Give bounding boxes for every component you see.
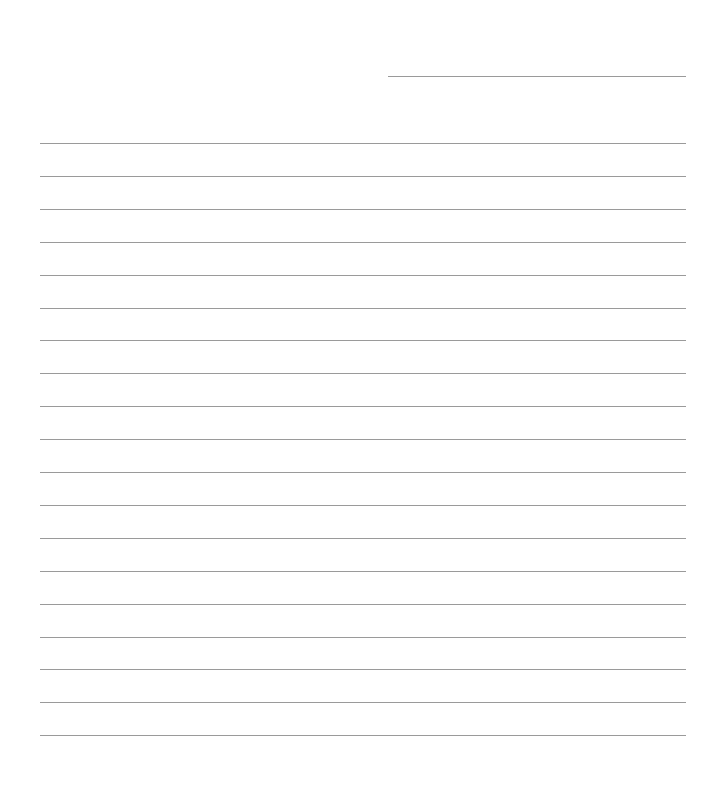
ruled-line [40,571,686,572]
ruled-line [40,505,686,506]
ruled-line [40,209,686,210]
ruled-line [40,604,686,605]
ruled-line [40,669,686,670]
ruled-line [40,275,686,276]
ruled-line [40,308,686,309]
ruled-line [40,373,686,374]
ruled-line [40,176,686,177]
ruled-line [40,340,686,341]
ruled-line [40,735,686,736]
ruled-line [40,439,686,440]
ruled-line [40,242,686,243]
ruled-line [40,143,686,144]
ruled-line [40,472,686,473]
ruled-line [40,406,686,407]
ruled-line [40,538,686,539]
header-name-line [388,76,686,77]
ruled-line [40,702,686,703]
ruled-line [40,637,686,638]
